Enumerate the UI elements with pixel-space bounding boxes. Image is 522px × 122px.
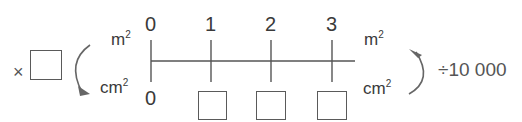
multiplier-blank-box[interactable] — [30, 50, 62, 80]
top-label-3: 3 — [326, 14, 337, 34]
answer-box-2[interactable] — [256, 91, 286, 120]
multiply-sign: × — [13, 62, 24, 83]
divide-label: ÷10 000 — [438, 59, 507, 81]
bottom-unit-right: cm2 — [363, 79, 391, 99]
answer-box-3[interactable] — [317, 91, 347, 120]
top-unit-right: m2 — [364, 30, 384, 50]
answer-box-1[interactable] — [198, 91, 227, 120]
top-label-2: 2 — [265, 14, 276, 34]
top-label-1: 1 — [205, 14, 216, 34]
bottom-unit-left: cm2 — [100, 78, 128, 98]
top-unit-left: m2 — [111, 30, 131, 50]
top-label-0: 0 — [145, 14, 156, 34]
bottom-label-0: 0 — [145, 88, 156, 108]
